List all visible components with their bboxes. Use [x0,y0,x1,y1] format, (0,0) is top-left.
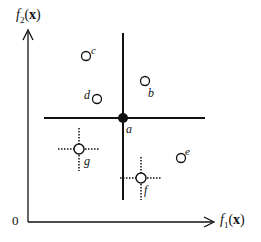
point-c-marker [82,52,91,61]
y-axis-label-arg: x [29,7,36,22]
point-f-label: f [144,183,147,198]
point-g-marker [74,144,84,154]
diagram-canvas [0,0,261,242]
point-b-label: b [148,86,154,101]
x-axis-label-arg: x [233,212,240,227]
y-axis-label-sub: 2 [20,15,25,25]
point-f-dotted-cross [120,157,162,200]
point-d-marker [93,95,102,104]
point-e-label: e [185,145,190,157]
x-axis-label-sub: 1 [224,220,229,230]
point-g-label: g [84,154,90,169]
point-f-marker [136,173,146,183]
point-c-label: c [91,44,96,56]
y-axis-label: f2(x) [16,7,41,25]
origin-label: 0 [12,213,19,229]
point-a-label: a [126,122,132,137]
point-g-dotted-cross [58,128,100,171]
point-d-label: d [84,88,90,103]
x-axis-label: f1(x) [220,212,245,230]
point-b-marker [141,77,150,86]
